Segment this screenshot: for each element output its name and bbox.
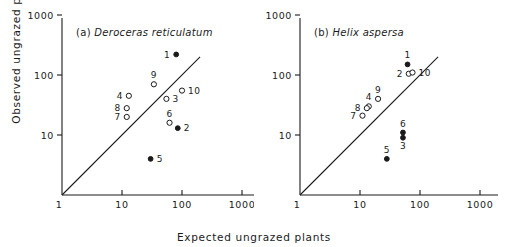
data-point-label: 2 xyxy=(397,69,403,79)
panel-a: 1010010001101001000(a) Deroceras reticul… xyxy=(0,0,254,247)
data-point-label: 10 xyxy=(188,86,200,96)
svg-text:1: 1 xyxy=(294,199,301,210)
data-point-label: 9 xyxy=(375,85,381,95)
data-point-label: 10 xyxy=(419,68,431,78)
data-point-label: 4 xyxy=(366,92,372,102)
data-point-label: 8 xyxy=(355,103,361,113)
data-point xyxy=(364,106,369,111)
svg-text:100: 100 xyxy=(172,199,192,210)
data-point-label: 1 xyxy=(404,50,410,60)
data-point-label: 8 xyxy=(115,103,121,113)
svg-text:100: 100 xyxy=(272,70,292,81)
panel-b-axes: 1010010001101001000(b) Helix aspersa xyxy=(265,10,498,211)
x-axis-label: Expected ungrazed plants xyxy=(0,231,508,243)
data-point-label: 6 xyxy=(166,109,172,119)
panel-a-plot: 1010010001101001000(a) Deroceras reticul… xyxy=(0,0,254,247)
panel-a-series: 12345678910 xyxy=(115,50,201,164)
svg-text:10: 10 xyxy=(115,199,128,210)
panel-b-plot: 1010010001101001000(b) Helix aspersa 123… xyxy=(254,0,508,247)
svg-text:1000: 1000 xyxy=(265,10,292,21)
panel-b-series: 12345678910 xyxy=(350,50,430,161)
data-point xyxy=(375,96,380,101)
svg-text:100: 100 xyxy=(410,199,430,210)
svg-text:10: 10 xyxy=(353,199,366,210)
data-point xyxy=(179,88,184,93)
data-point xyxy=(401,130,406,135)
svg-text:10: 10 xyxy=(279,130,292,141)
svg-text:(b) Helix aspersa: (b) Helix aspersa xyxy=(314,27,404,38)
data-point xyxy=(405,62,410,67)
data-point xyxy=(167,120,172,125)
data-point xyxy=(124,106,129,111)
svg-text:10: 10 xyxy=(41,130,54,141)
data-point xyxy=(151,82,156,87)
data-point-label: 7 xyxy=(115,112,121,122)
panel-b: 1010010001101001000(b) Helix aspersa 123… xyxy=(254,0,508,247)
data-point-label: 4 xyxy=(117,91,123,101)
panel-a-axes: 1010010001101001000(a) Deroceras reticul… xyxy=(27,10,254,211)
data-point-label: 3 xyxy=(400,141,406,151)
svg-text:1: 1 xyxy=(56,199,63,210)
data-point xyxy=(410,70,415,75)
svg-text:1000: 1000 xyxy=(27,10,54,21)
data-point xyxy=(164,96,169,101)
data-point xyxy=(126,93,131,98)
data-point xyxy=(401,135,406,140)
figure-container: 1010010001101001000(a) Deroceras reticul… xyxy=(0,0,508,247)
y-axis-label: Observed ungrazed plants xyxy=(10,0,22,136)
data-point-label: 2 xyxy=(184,123,190,133)
data-point xyxy=(384,156,389,161)
svg-text:(a) Deroceras reticulatum: (a) Deroceras reticulatum xyxy=(76,27,213,38)
data-point xyxy=(174,52,179,57)
svg-text:100: 100 xyxy=(34,70,54,81)
data-point-label: 1 xyxy=(164,50,170,60)
data-point xyxy=(148,156,153,161)
data-point-label: 3 xyxy=(172,94,178,104)
svg-text:1000: 1000 xyxy=(229,199,254,210)
data-point-label: 5 xyxy=(384,145,390,155)
data-point xyxy=(124,114,129,119)
data-point-label: 5 xyxy=(157,154,163,164)
svg-text:1000: 1000 xyxy=(467,199,494,210)
data-point-label: 6 xyxy=(400,119,406,129)
data-point xyxy=(360,113,365,118)
data-point xyxy=(175,126,180,131)
data-point-label: 9 xyxy=(151,70,157,80)
